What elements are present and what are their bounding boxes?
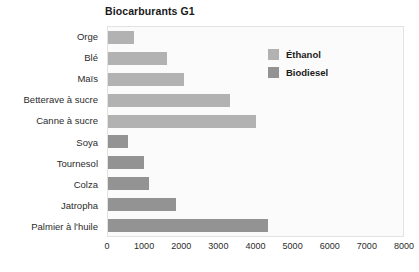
- bars-layer: [108, 27, 403, 236]
- legend-label: Biodiesel: [286, 67, 328, 78]
- bar-row: [108, 132, 403, 153]
- y-axis-label: Palmier à l'huile: [0, 216, 103, 237]
- x-axis-tick-label: 2000: [171, 241, 191, 251]
- x-axis-tick-label: 3000: [208, 241, 228, 251]
- bar-row: [108, 69, 403, 90]
- y-axis-label: Orge: [0, 26, 103, 47]
- x-axis-tick-label: 8000: [394, 241, 414, 251]
- x-axis-tick-label: 1000: [134, 241, 154, 251]
- bar-row: [108, 173, 403, 194]
- bar: [108, 177, 149, 190]
- y-axis-category-labels: OrgeBléMaïsBetterave à sucreCanne à sucr…: [0, 26, 103, 237]
- bar-chart-figure: Biocarburants G1 OrgeBléMaïsBetterave à …: [0, 0, 419, 272]
- bar: [108, 219, 268, 232]
- bar-row: [108, 111, 403, 132]
- bar: [108, 31, 134, 44]
- y-axis-label: Colza: [0, 174, 103, 195]
- y-axis-label: Maïs: [0, 68, 103, 89]
- legend-entry: Biodiesel: [268, 67, 328, 78]
- y-axis-label: Jatropha: [0, 195, 103, 216]
- y-axis-label: Tournesol: [0, 153, 103, 174]
- bar: [108, 73, 184, 86]
- x-axis-tick-label: 7000: [357, 241, 377, 251]
- bar: [108, 115, 256, 128]
- bar-row: [108, 48, 403, 69]
- legend-label: Éthanol: [286, 49, 321, 60]
- chart-legend: ÉthanolBiodiesel: [268, 49, 328, 78]
- bar-row: [108, 215, 403, 236]
- bar: [108, 52, 167, 65]
- y-axis-label: Blé: [0, 47, 103, 68]
- x-axis-tick-label: 5000: [283, 241, 303, 251]
- y-axis-label: Canne à sucre: [0, 110, 103, 131]
- legend-swatch-icon: [268, 67, 279, 78]
- x-axis-tick-label: 0: [104, 241, 109, 251]
- bar: [108, 198, 176, 211]
- bar-row: [108, 194, 403, 215]
- x-axis-tick-labels: 010002000300040005000600070008000: [107, 241, 404, 255]
- bar-row: [108, 90, 403, 111]
- plot-area: ÉthanolBiodiesel: [107, 26, 404, 237]
- y-axis-label: Soya: [0, 131, 103, 152]
- bar: [108, 94, 230, 107]
- legend-swatch-icon: [268, 49, 279, 60]
- x-axis-tick-label: 4000: [245, 241, 265, 251]
- chart-title: Biocarburants G1: [105, 5, 195, 17]
- x-axis-tick-label: 6000: [320, 241, 340, 251]
- bar-row: [108, 152, 403, 173]
- bar: [108, 135, 128, 148]
- bar: [108, 156, 144, 169]
- bar-row: [108, 27, 403, 48]
- y-axis-label: Betterave à sucre: [0, 89, 103, 110]
- legend-entry: Éthanol: [268, 49, 328, 60]
